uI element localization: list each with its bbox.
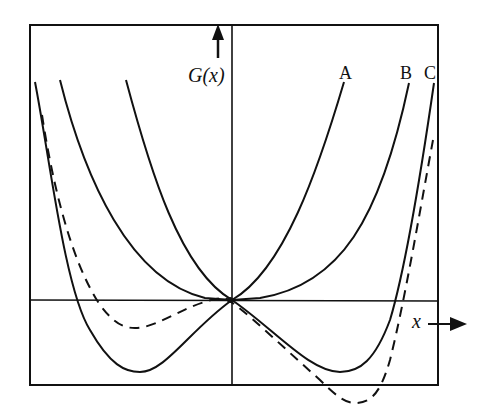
curve-b-label: B xyxy=(400,63,412,84)
curve-dashed xyxy=(42,115,433,403)
origin-point xyxy=(227,297,233,303)
curve-a-label: A xyxy=(339,63,352,84)
curve-c xyxy=(35,82,434,372)
free-energy-diagram xyxy=(0,0,490,420)
curve-a xyxy=(126,80,344,300)
curve-b xyxy=(60,80,409,300)
curve-c-label: C xyxy=(424,63,436,84)
y-axis-arrow-icon xyxy=(212,24,224,58)
x-axis-arrow-icon xyxy=(428,317,467,331)
y-axis-label: G(x) xyxy=(188,64,225,87)
x-axis-label: x xyxy=(412,310,421,333)
